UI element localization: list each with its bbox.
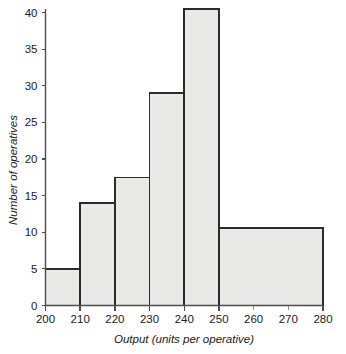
histogram-bar [184,9,219,306]
histogram-bar [150,93,185,305]
y-tick-label: 0 [31,300,37,312]
histogram-bar [46,269,81,306]
y-tick-label: 35 [25,43,38,55]
histogram-figure: 0510152025303540 20021022023024025026027… [0,0,346,354]
x-tick-label: 230 [140,313,159,325]
x-tick-label: 220 [105,313,124,325]
histogram-bar [219,228,323,306]
x-tick-label: 280 [313,313,332,325]
y-tick-label: 10 [25,226,38,238]
y-tick-label: 25 [25,116,38,128]
x-axis: 200210220230240250260270280 [36,306,333,325]
x-tick-label: 250 [209,313,228,325]
y-tick-label: 40 [25,7,38,19]
histogram-plot: 0510152025303540 20021022023024025026027… [0,0,346,354]
x-tick-label: 200 [36,313,55,325]
y-tick-label: 5 [31,263,37,275]
histogram-bar [115,177,150,305]
y-tick-label: 15 [25,190,38,202]
x-tick-label: 260 [244,313,263,325]
y-axis-title: Number of operatives [7,115,19,225]
histogram-bar [80,203,115,305]
y-tick-label: 20 [25,153,38,165]
x-tick-labels: 200210220230240250260270280 [36,313,333,325]
x-tick-label: 240 [175,313,194,325]
x-tick-label: 210 [71,313,90,325]
x-tick-label: 270 [279,313,298,325]
x-axis-title: Output (units per operative) [114,333,254,345]
y-tick-label: 30 [25,80,38,92]
